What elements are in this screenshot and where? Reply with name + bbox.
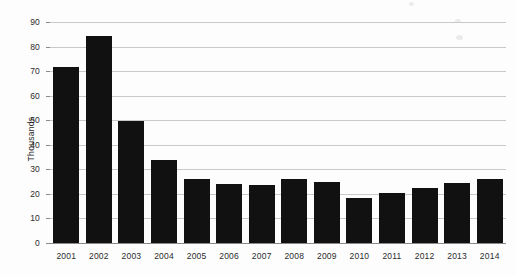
y-axis-tick-labels: 0102030405060708090 xyxy=(0,0,50,277)
x-axis-tick-label: 2009 xyxy=(311,251,344,261)
x-axis-tick-label: 2012 xyxy=(408,251,441,261)
bar-slot xyxy=(379,22,405,243)
x-axis-tick-label: 2002 xyxy=(83,251,116,261)
bar-slot xyxy=(314,22,340,243)
y-axis-tick-label: 10 xyxy=(30,213,40,223)
bar-2005 xyxy=(184,179,210,243)
bar-slot xyxy=(184,22,210,243)
bar-2008 xyxy=(281,179,307,243)
scan-artifact xyxy=(409,2,414,6)
x-axis-tick-label: 2007 xyxy=(245,251,278,261)
x-axis-tick-label: 2006 xyxy=(213,251,246,261)
x-axis-tick-label: 2008 xyxy=(278,251,311,261)
bar-slot xyxy=(118,22,144,243)
bar-2011 xyxy=(379,193,405,243)
x-axis-tick-label: 2011 xyxy=(376,251,409,261)
y-axis-tick-label: 70 xyxy=(30,66,40,76)
y-axis-tick-label: 30 xyxy=(30,164,40,174)
y-axis-tick-label: 80 xyxy=(30,42,40,52)
bar-series xyxy=(50,22,506,243)
bar-2009 xyxy=(314,182,340,243)
bar-2001 xyxy=(53,67,79,243)
x-axis-baseline xyxy=(50,243,506,244)
bar-slot xyxy=(249,22,275,243)
x-axis-tick-label: 2013 xyxy=(441,251,474,261)
x-axis-tick-labels: 2001200220032004200520062007200820092010… xyxy=(50,248,506,268)
bar-2010 xyxy=(346,198,372,243)
bar-slot xyxy=(216,22,242,243)
bar-slot xyxy=(346,22,372,243)
bar-2012 xyxy=(412,188,438,243)
bar-2007 xyxy=(249,185,275,243)
bar-2006 xyxy=(216,184,242,243)
y-axis-tick-label: 50 xyxy=(30,115,40,125)
x-axis-tick-label: 2005 xyxy=(180,251,213,261)
bar-slot xyxy=(53,22,79,243)
x-axis-tick-label: 2004 xyxy=(148,251,181,261)
bar-slot xyxy=(281,22,307,243)
bar-2004 xyxy=(151,160,177,243)
bar-slot xyxy=(151,22,177,243)
bar-slot xyxy=(86,22,112,243)
y-axis-tick-label: 60 xyxy=(30,91,40,101)
x-axis-tick-label: 2010 xyxy=(343,251,376,261)
bar-chart: Thousands 0102030405060708090 2001200220… xyxy=(0,0,516,277)
bar-slot xyxy=(477,22,503,243)
y-axis-tick-label: 20 xyxy=(30,189,40,199)
y-axis-tick-label: 0 xyxy=(35,238,40,248)
bar-2013 xyxy=(444,183,470,243)
x-axis-tick-label: 2003 xyxy=(115,251,148,261)
x-axis-tick-label: 2001 xyxy=(50,251,83,261)
bar-slot xyxy=(412,22,438,243)
y-axis-tick-label: 40 xyxy=(30,140,40,150)
y-axis-tick-label: 90 xyxy=(30,17,40,27)
x-axis-tick-label: 2014 xyxy=(473,251,506,261)
bar-2003 xyxy=(118,121,144,243)
bar-slot xyxy=(444,22,470,243)
bar-2002 xyxy=(86,36,112,243)
bar-2014 xyxy=(477,179,503,243)
